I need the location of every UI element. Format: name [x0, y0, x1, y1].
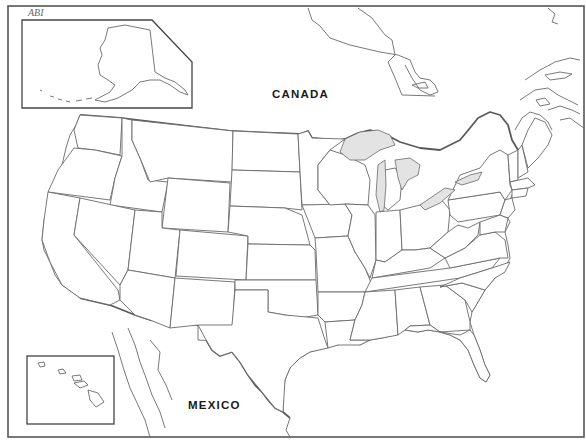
state-connecticut[interactable] [512, 188, 528, 198]
us-outline-map: ABI [0, 0, 586, 441]
state-oregon[interactable] [48, 148, 122, 200]
state-florida[interactable] [405, 325, 490, 382]
hawaii-inset [27, 356, 114, 424]
state-north-dakota[interactable] [232, 131, 300, 172]
state-colorado[interactable] [176, 230, 248, 280]
alaska-inset [22, 20, 192, 108]
canada-label: CANADA [272, 88, 329, 100]
mexico-label: MEXICO [188, 399, 241, 411]
state-iowa[interactable] [302, 204, 352, 238]
state-kansas[interactable] [246, 244, 316, 280]
state-south-dakota[interactable] [230, 170, 302, 210]
state-vermont[interactable] [508, 150, 518, 182]
state-maine[interactable] [522, 118, 552, 168]
state-wyoming[interactable] [162, 178, 230, 232]
states [42, 115, 552, 412]
canada-coastlines [308, 8, 584, 130]
scan-mark: ABI [27, 7, 44, 18]
lake-superior [340, 130, 395, 160]
state-arizona[interactable] [120, 270, 175, 328]
map-canvas: ABI [0, 0, 586, 441]
lake-michigan [376, 160, 386, 212]
state-montana[interactable] [132, 120, 233, 182]
